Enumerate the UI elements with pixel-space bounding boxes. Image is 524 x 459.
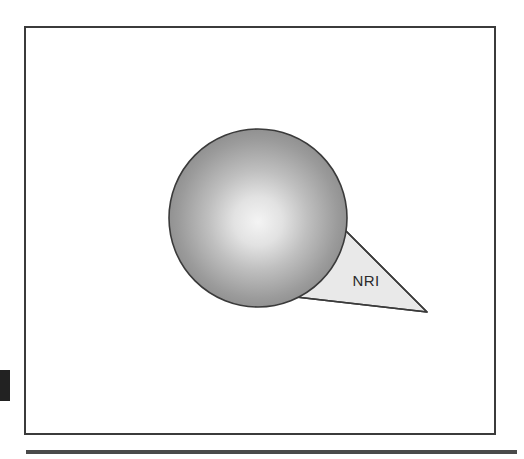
- figure-canvas: NRI: [0, 0, 524, 459]
- nri-label: NRI: [352, 272, 379, 289]
- gradient-sphere: [169, 129, 347, 307]
- bottom-rule: [26, 450, 517, 454]
- diagram-svg: NRI: [0, 0, 524, 459]
- left-edge-marker: [0, 370, 10, 401]
